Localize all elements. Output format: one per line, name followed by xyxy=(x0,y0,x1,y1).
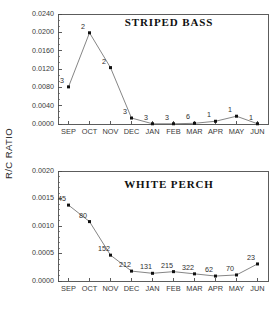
data-point-label: 45 xyxy=(58,194,66,203)
data-point-label: 1 xyxy=(228,105,232,114)
y-tick-label: 0.0010 xyxy=(32,221,54,230)
plot-frame xyxy=(58,14,268,124)
data-point-marker xyxy=(235,115,238,118)
data-point-label: 2 xyxy=(102,57,106,66)
x-tick-label: NOV xyxy=(102,127,118,136)
x-tick-label: FEB xyxy=(166,127,180,136)
data-point-marker xyxy=(130,117,133,120)
data-point-marker xyxy=(172,122,175,125)
x-tick-label: MAR xyxy=(186,284,202,293)
x-tick-label: DEC xyxy=(124,284,140,293)
x-tick-label: JUN xyxy=(250,127,264,136)
data-point-label: 215 xyxy=(161,261,173,270)
data-point-label: 212 xyxy=(119,260,131,269)
data-point-marker xyxy=(256,122,259,125)
data-point-label: 6 xyxy=(186,112,190,121)
x-tick-label: APR xyxy=(208,127,223,136)
y-tick-label: 0.0005 xyxy=(32,248,54,257)
y-tick-label: 0.0015 xyxy=(32,193,54,202)
data-point-marker xyxy=(256,262,259,265)
data-point-label: 62 xyxy=(205,265,213,274)
data-point-label: 1 xyxy=(249,113,253,122)
data-point-marker xyxy=(214,275,217,278)
x-tick-label: NOV xyxy=(102,284,118,293)
x-tick-label: MAY xyxy=(229,127,245,136)
data-point-label: 23 xyxy=(247,253,255,262)
data-point-marker xyxy=(193,122,196,125)
data-point-label: 131 xyxy=(140,262,152,271)
y-tick-label: 0.0160 xyxy=(32,46,54,55)
data-point-label: 3 xyxy=(60,76,64,85)
x-tick-label: SEP xyxy=(61,127,76,136)
chart-title: STRIPED BASS xyxy=(125,16,214,28)
data-point-marker xyxy=(235,273,238,276)
x-tick-label: FEB xyxy=(166,284,180,293)
white-perch-plot: 0.00000.00050.00100.00150.0020SEPOCTNOVD… xyxy=(0,157,275,315)
data-point-label: 3 xyxy=(123,107,127,116)
y-tick-label: 0.0120 xyxy=(32,64,54,73)
data-point-label: 3 xyxy=(144,113,148,122)
chart-panel-white-perch: 0.00000.00050.00100.00150.0020SEPOCTNOVD… xyxy=(0,157,275,315)
data-point-marker xyxy=(67,204,70,207)
y-tick-label: 0.0080 xyxy=(32,82,54,91)
y-tick-label: 0.0040 xyxy=(32,101,54,110)
data-point-label: 3 xyxy=(165,113,169,122)
data-point-marker xyxy=(109,66,112,69)
chart-title: WHITE PERCH xyxy=(124,178,214,190)
data-point-marker xyxy=(88,31,91,34)
data-point-marker xyxy=(130,270,133,273)
y-tick-label: 0.0000 xyxy=(32,119,54,128)
data-point-marker xyxy=(67,85,70,88)
x-tick-label: APR xyxy=(208,284,223,293)
data-point-marker xyxy=(88,220,91,223)
y-tick-label: 0.0000 xyxy=(32,276,54,285)
chart-panel-striped-bass: 0.00000.00400.00800.01200.01600.02000.02… xyxy=(0,0,275,158)
x-tick-label: DEC xyxy=(124,127,140,136)
data-point-marker xyxy=(109,254,112,257)
y-tick-label: 0.0020 xyxy=(32,166,54,175)
x-tick-label: JUN xyxy=(250,284,264,293)
data-point-label: 322 xyxy=(182,263,194,272)
data-point-marker xyxy=(151,272,154,275)
data-point-label: 152 xyxy=(98,244,110,253)
y-tick-label: 0.0240 xyxy=(32,9,54,18)
figure: R/C RATIO 0.00000.00400.00800.01200.0160… xyxy=(0,0,275,315)
x-tick-label: OCT xyxy=(82,284,98,293)
data-point-marker xyxy=(214,120,217,123)
data-point-label: 70 xyxy=(226,264,234,273)
data-point-marker xyxy=(193,272,196,275)
data-point-marker xyxy=(172,270,175,273)
x-tick-label: SEP xyxy=(61,284,76,293)
x-tick-label: MAY xyxy=(229,284,245,293)
striped-bass-plot: 0.00000.00400.00800.01200.01600.02000.02… xyxy=(0,0,275,158)
x-tick-label: JAN xyxy=(146,127,160,136)
x-tick-label: OCT xyxy=(82,127,98,136)
data-point-label: 2 xyxy=(81,22,85,31)
data-point-marker xyxy=(151,122,154,125)
data-point-label: 1 xyxy=(207,110,211,119)
x-tick-label: MAR xyxy=(186,127,202,136)
data-point-label: 80 xyxy=(79,211,87,220)
y-tick-label: 0.0200 xyxy=(32,27,54,36)
x-tick-label: JAN xyxy=(146,284,160,293)
